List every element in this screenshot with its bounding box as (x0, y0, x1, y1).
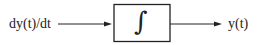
output-arrowhead-icon (214, 22, 222, 27)
input-label: dy(t)/dt (9, 17, 51, 31)
input-arrowhead-icon (104, 22, 112, 27)
output-label: y(t) (228, 17, 248, 31)
integral-icon: ∫ (134, 8, 148, 34)
